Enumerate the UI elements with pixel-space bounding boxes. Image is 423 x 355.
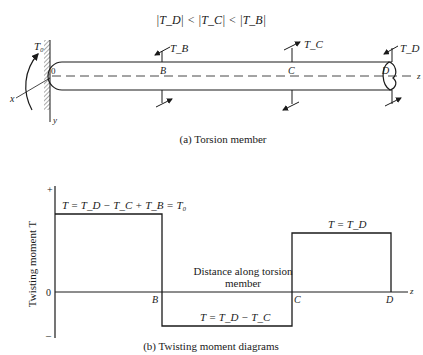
- segment-label-b-c: T = T_D − T_C: [200, 311, 271, 323]
- torsion-figure: |T_D| < |T_C| < |T_B| y z x T₀ 0 B T_B C…: [0, 0, 423, 355]
- point-d-label: D: [381, 65, 390, 76]
- point-b-label: B: [160, 65, 166, 76]
- x-axis-title-line1: Distance along torsion: [194, 265, 293, 277]
- tb-label: T_B: [170, 42, 189, 54]
- twisting-moment-chart: + 0 – Twisting moment T z B C D T = T_D …: [26, 184, 414, 353]
- point-d: D: [385, 294, 394, 305]
- tb-bottom-arrow: [156, 99, 172, 107]
- t0-label: T₀: [34, 40, 44, 52]
- segment-label-c-d: T = T_D: [328, 218, 366, 230]
- x-axis-label: x: [9, 93, 15, 104]
- minus-label: –: [45, 330, 52, 341]
- tc-label: T_C: [304, 38, 324, 50]
- z-label: z: [409, 286, 414, 296]
- zero-label: 0: [46, 287, 51, 298]
- point-c: C: [294, 294, 301, 305]
- segment-label-0-b: T = T_D − T_C + T_B = T₀: [62, 199, 187, 211]
- x-axis-title-line2: member: [225, 277, 261, 289]
- td-top-arrow: [384, 46, 398, 54]
- fixed-wall-hatch: [44, 40, 50, 110]
- caption-a: (a) Torsion member: [179, 133, 266, 146]
- origin-label: 0: [51, 66, 56, 76]
- y-axis-label: y: [52, 115, 57, 125]
- caption-b: (b) Twisting moment diagrams: [143, 340, 279, 353]
- td-bottom-arrow: [385, 98, 401, 106]
- td-label: T_D: [400, 42, 420, 54]
- torsion-member-diagram: |T_D| < |T_C| < |T_B| y z x T₀ 0 B T_B C…: [9, 13, 421, 146]
- inequality-label: |T_D| < |T_C| < |T_B|: [156, 13, 266, 27]
- plus-label: +: [47, 184, 53, 195]
- y-axis-title: Twisting moment T: [26, 221, 38, 308]
- t0-moment-arrow: [26, 54, 38, 110]
- point-c-label: C: [288, 65, 295, 76]
- tc-bottom-arrow: [283, 102, 299, 110]
- point-b: B: [152, 294, 158, 305]
- z-axis-label: z: [416, 71, 421, 81]
